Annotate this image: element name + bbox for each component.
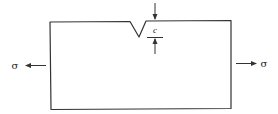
- right-stress: σ: [236, 58, 268, 69]
- left-stress-label: σ: [12, 60, 19, 71]
- plate-outline: [50, 21, 231, 110]
- right-stress-label: σ: [261, 58, 268, 69]
- crack-depth-label: c: [153, 25, 157, 35]
- crack-depth-dimension: c: [147, 3, 163, 54]
- left-stress: σ: [12, 60, 46, 71]
- notched-plate-diagram: c σ σ: [0, 0, 278, 114]
